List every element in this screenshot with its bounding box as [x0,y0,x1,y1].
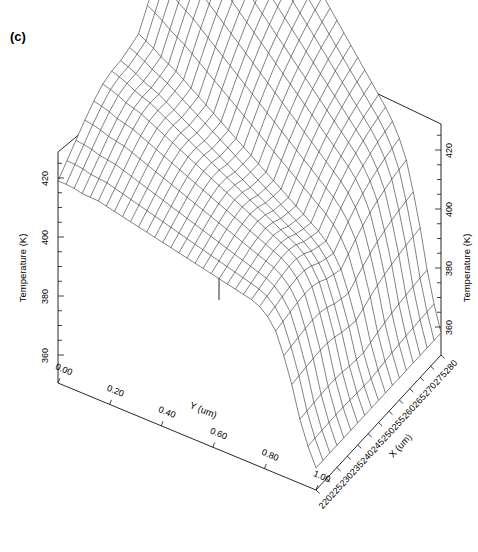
z-ticklabel-right: 400 [444,202,454,217]
y-tick [213,443,215,448]
z-ticklabel-right: 360 [444,320,454,335]
z-ticklabel-right: 420 [444,143,454,158]
y-axis-line [58,383,316,490]
x-tick [316,490,320,493]
y-tick [161,421,163,426]
x-tick [420,378,424,381]
z-ticklabel-right: 380 [444,261,454,276]
x-tick [431,366,435,369]
y-ticklabel: 0.00 [54,361,74,377]
surface-mesh [58,0,441,468]
z-ticklabel-left: 380 [40,289,50,304]
z-ticklabel-left: 400 [40,230,50,245]
x-tick [389,411,393,414]
z-ticklabel-left: 420 [40,171,50,186]
y-ticklabel: 0.60 [209,426,229,442]
x-tick [368,434,372,437]
z-axis-title-right: Temperature (K) [461,234,472,303]
y-axis-title: Y (um) [188,399,218,420]
figure-3d-surface-plot: (c) 360360380380400400420420Temperature … [0,0,478,552]
y-ticklabel: 0.40 [157,404,177,420]
x-tick [399,400,403,403]
x-tick [358,445,362,448]
y-ticklabel: 0.80 [260,447,280,463]
z-ticklabel-left: 360 [40,348,50,363]
x-tick [337,468,341,471]
z-axis-title-left: Temperature (K) [17,234,28,303]
y-ticklabel: 0.20 [105,383,125,399]
y-ticklabel: 1.00 [312,468,332,484]
x-tick [347,456,351,459]
x-tick [410,389,414,392]
y-tick [264,464,266,469]
x-tick [441,355,445,358]
x-tick [379,423,383,426]
surface-plot-svg: 360360380380400400420420Temperature (K)T… [0,0,478,552]
y-tick [110,400,112,405]
